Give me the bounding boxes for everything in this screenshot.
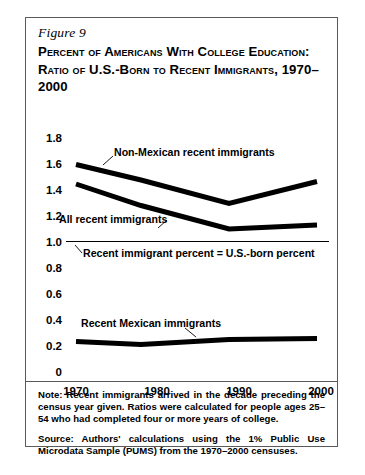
chart-plot-area: 1.8 1.6 1.4 1.2 1.0 0.8 0.6 0.4 0.2 0	[26, 108, 337, 373]
figure-note: Note: Recent immigrants arrived in the d…	[38, 389, 325, 426]
reference-line-leader	[75, 245, 82, 253]
figure-source: Source: Authors' calculations using the …	[38, 433, 325, 457]
figure-number-label: Figure 9	[38, 25, 86, 41]
series-annotation-mexican: Recent Mexican immigrants	[81, 317, 221, 329]
figure-notes-block: Note: Recent immigrants arrived in the d…	[26, 381, 337, 464]
series-annotation-non-mexican: Non-Mexican recent immigrants	[114, 146, 275, 158]
series-recent-mexican-immigrants	[76, 328, 317, 345]
series-line-mexican	[76, 339, 317, 345]
figure-container: Figure 9 Percent of Americans With Colle…	[25, 17, 338, 447]
series-leader-non-mexican	[103, 156, 113, 165]
series-annotation-all-recent: All recent immigrants	[59, 213, 167, 225]
series-annotation-reference-line: Recent immigrant percent = U.S.-born per…	[83, 247, 315, 259]
figure-title: Percent of Americans With College Educat…	[38, 43, 328, 96]
series-leader-mexican	[185, 328, 196, 337]
